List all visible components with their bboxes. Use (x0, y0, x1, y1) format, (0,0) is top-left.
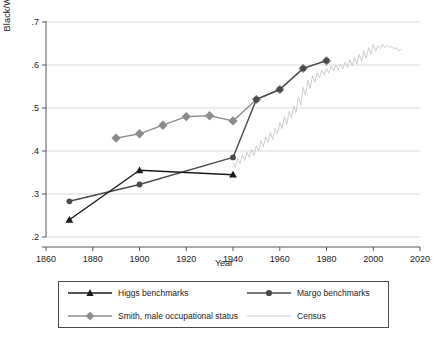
data-point-marker (158, 121, 167, 130)
chart-figure: .2.3.4.5.6.71860188019001920194019601980… (0, 0, 448, 338)
data-point-marker (137, 182, 143, 188)
data-point-marker (277, 87, 283, 93)
data-point-marker (135, 129, 144, 138)
series-line (116, 61, 326, 138)
legend-item[interactable]: Margo benchmarks (238, 287, 388, 299)
y-axis-title: Black/White ratio (2, 0, 12, 66)
y-axis-tick-label: .2 (31, 232, 39, 242)
legend-item[interactable]: Census (238, 310, 388, 322)
data-point-marker (230, 155, 236, 161)
chart-legend: Higgs benchmarksMargo benchmarksSmith, m… (58, 281, 389, 328)
legend-item-label: Census (297, 311, 326, 321)
legend-marker-circle-icon (246, 287, 292, 299)
legend-marker-none-icon (246, 310, 292, 322)
y-axis-tick-label: .5 (31, 103, 39, 113)
y-axis-tick-label: .6 (31, 60, 39, 70)
chart-canvas: .2.3.4.5.6.71860188019001920194019601980… (0, 0, 448, 278)
y-axis-tick-label: .3 (31, 189, 39, 199)
legend-item[interactable]: Smith, male occupational status (59, 310, 238, 322)
y-axis-tick-label: .7 (31, 17, 39, 27)
legend-marker-diamond-icon (67, 310, 113, 322)
legend-item-label: Margo benchmarks (297, 288, 370, 298)
x-axis-title: Year (0, 258, 448, 268)
data-point-marker (66, 216, 74, 223)
data-point-marker (324, 58, 330, 64)
plot-area: .2.3.4.5.6.71860188019001920194019601980… (0, 0, 448, 278)
legend-item-label: Higgs benchmarks (118, 288, 188, 298)
data-point-marker (254, 97, 260, 103)
data-point-marker (205, 111, 214, 120)
data-point-marker (300, 66, 306, 72)
y-axis-tick-label: .4 (31, 146, 39, 156)
data-point-marker (182, 112, 191, 121)
legend-item[interactable]: Higgs benchmarks (59, 287, 238, 299)
data-point-marker (111, 133, 120, 142)
legend-marker-triangle-icon (67, 287, 113, 299)
series-line (233, 44, 401, 167)
series-line (69, 61, 326, 202)
legend-item-label: Smith, male occupational status (118, 311, 238, 321)
data-point-marker (67, 198, 73, 204)
